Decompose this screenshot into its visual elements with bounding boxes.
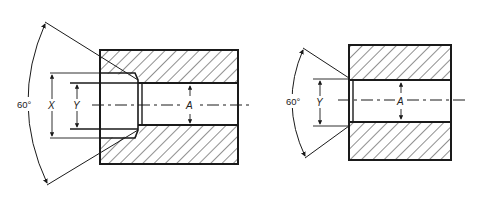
right-angle-label: 60°: [286, 96, 301, 107]
left-hatched-section: [100, 50, 238, 164]
diagram-canvas: 60° X Y A 60°: [0, 0, 480, 202]
left-angle-label: 60°: [17, 99, 32, 110]
right-figure: 60° Y A: [284, 45, 465, 160]
right-a-label: A: [396, 96, 404, 107]
left-figure: 60° X Y A: [16, 22, 252, 185]
left-a-label: A: [185, 100, 193, 111]
left-x-label: X: [47, 100, 55, 111]
